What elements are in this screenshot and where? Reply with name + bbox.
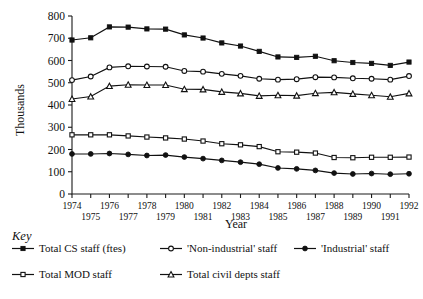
data-point: [201, 156, 206, 161]
data-point: [351, 60, 355, 64]
legend-label: Total civil depts staff: [187, 268, 280, 280]
data-point: [313, 75, 318, 80]
data-point: [275, 92, 281, 97]
legend-item[interactable]: Total MOD staff: [12, 268, 112, 280]
y-tick-label: 300: [48, 121, 66, 133]
data-point: [182, 33, 186, 37]
data-point: [163, 153, 168, 158]
series-1: [70, 25, 411, 68]
data-point: [88, 152, 93, 157]
data-point: [351, 156, 355, 160]
data-point: [388, 155, 392, 159]
data-point: [70, 38, 74, 42]
data-point: [238, 44, 242, 48]
legend-label: 'Non-industrial' staff: [187, 242, 278, 254]
x-tick-label: 1975: [81, 212, 100, 222]
data-point: [126, 25, 130, 29]
data-point: [107, 83, 113, 88]
x-tick-label: 1974: [63, 201, 82, 211]
data-point: [257, 145, 261, 149]
data-point: [369, 171, 374, 176]
data-point: [294, 166, 299, 171]
data-point: [181, 86, 187, 91]
data-point: [89, 36, 93, 40]
y-tick-label: 500: [48, 77, 66, 89]
legend-marker: [21, 246, 25, 250]
data-point: [145, 135, 149, 139]
legend-title: Key: [11, 229, 32, 243]
line-chart: Thousands 0100200300400500600700800 1974…: [0, 0, 423, 299]
data-point: [388, 77, 393, 82]
data-point: [182, 155, 187, 160]
data-point: [88, 74, 93, 79]
x-tick-label: 1980: [175, 201, 194, 211]
data-point: [331, 89, 337, 94]
data-point: [350, 91, 356, 96]
data-point: [369, 155, 373, 159]
data-point: [369, 92, 375, 97]
y-tick-label: 400: [48, 99, 66, 111]
legend-marker: [169, 246, 174, 251]
data-point: [220, 41, 224, 45]
data-point: [219, 71, 224, 76]
data-point: [201, 36, 205, 40]
data-point: [107, 25, 111, 29]
data-point: [332, 155, 336, 159]
legend-item[interactable]: 'Non-industrial' staff: [160, 242, 278, 254]
data-point: [276, 55, 280, 59]
legend-item[interactable]: Total CS staff (ftes): [12, 242, 126, 255]
data-point: [332, 171, 337, 176]
x-tick-label: 1988: [325, 201, 344, 211]
data-point: [144, 153, 149, 158]
x-tick-label: 1987: [306, 212, 325, 222]
y-tick-label: 600: [48, 55, 66, 67]
data-point: [201, 69, 206, 74]
data-point: [182, 69, 187, 74]
chart-figure: Thousands 0100200300400500600700800 1974…: [0, 0, 423, 299]
data-point: [107, 151, 112, 156]
data-point: [238, 91, 244, 96]
x-tick-label: 1981: [194, 212, 213, 222]
data-point: [70, 133, 74, 137]
data-point: [144, 64, 149, 69]
data-point: [406, 91, 412, 96]
data-point: [107, 65, 112, 70]
data-point: [107, 133, 111, 137]
legend-item[interactable]: 'Industrial' staff: [294, 242, 390, 254]
data-point: [69, 96, 75, 101]
data-point: [144, 82, 150, 87]
y-tick-label: 100: [48, 166, 66, 178]
x-tick-label: 1977: [119, 212, 138, 222]
data-point: [407, 60, 411, 64]
x-tick-label: 1985: [268, 212, 287, 222]
data-point: [257, 49, 261, 53]
data-point: [295, 55, 299, 59]
x-tick-label: 1990: [362, 201, 381, 211]
data-point: [70, 78, 75, 83]
x-tick-label: 1989: [343, 212, 362, 222]
data-point: [276, 150, 280, 154]
data-point: [332, 75, 337, 80]
data-point: [407, 155, 411, 159]
legend-item[interactable]: Total civil depts staff: [160, 268, 280, 280]
data-point: [145, 27, 149, 31]
data-point: [238, 73, 243, 78]
x-tick-label: 1978: [137, 201, 156, 211]
data-point: [126, 64, 131, 69]
x-tick-label: 1984: [250, 201, 269, 211]
legend: Total CS staff (ftes)'Non-industrial' st…: [12, 242, 390, 280]
data-point: [257, 76, 262, 81]
data-point: [126, 152, 131, 157]
legend-label: 'Industrial' staff: [321, 242, 390, 254]
axis-lines: [72, 16, 409, 194]
data-point: [238, 160, 243, 165]
data-point: [164, 136, 168, 140]
data-point: [294, 93, 300, 98]
legend-marker: [168, 272, 174, 277]
x-axis-ticks: [72, 194, 409, 198]
x-tick-label: 1986: [287, 201, 306, 211]
data-point: [369, 76, 374, 81]
data-point: [70, 152, 75, 157]
data-point: [369, 61, 373, 65]
y-tick-label: 700: [48, 32, 66, 44]
